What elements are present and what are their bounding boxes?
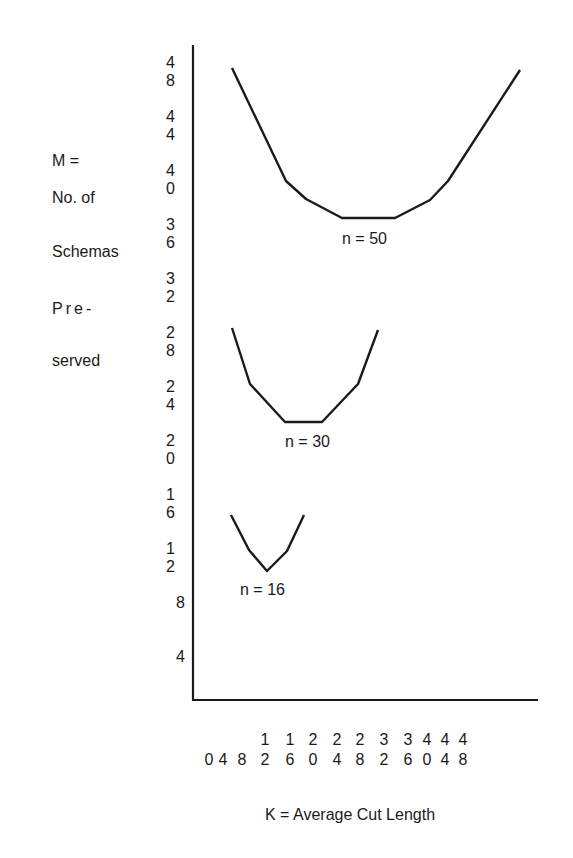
- x-tick-label-bottom: 4: [329, 751, 345, 769]
- curve-n50: [232, 68, 520, 218]
- x-tick-label-bottom: 8: [455, 751, 471, 769]
- x-tick-label-bottom: 0: [305, 751, 321, 769]
- chart-plot-area: [0, 0, 573, 858]
- y-axis-title-line: served: [52, 352, 100, 370]
- x-tick-label-top: 2: [305, 731, 321, 749]
- x-tick-label-top: 4: [419, 731, 435, 749]
- series-label-n50: n = 50: [342, 230, 387, 248]
- x-tick-label-top: 3: [400, 731, 416, 749]
- y-axis-title-line: Schemas: [52, 243, 119, 261]
- y-tick-label: 8: [176, 594, 206, 612]
- x-tick-label-top: 2: [329, 731, 345, 749]
- series-label-n16: n = 16: [240, 581, 285, 599]
- y-axis-title-line: No. of: [52, 189, 95, 207]
- x-tick-label-bottom: 8: [234, 751, 250, 769]
- x-tick-label-top: 1: [282, 731, 298, 749]
- x-tick-label-bottom: 6: [282, 751, 298, 769]
- y-tick-label: 2 4: [166, 378, 196, 414]
- y-tick-label: 4 8: [166, 54, 196, 90]
- x-tick-label-bottom: 4: [437, 751, 453, 769]
- y-tick-label: 1 2: [166, 540, 196, 576]
- y-tick-label: 3 6: [166, 216, 196, 252]
- curve-n30: [232, 328, 378, 422]
- y-tick-label: 2 8: [166, 324, 196, 360]
- x-tick-label-top: 3: [376, 731, 392, 749]
- x-tick-label-bottom: 4: [215, 751, 231, 769]
- x-tick-label-bottom: 0: [419, 751, 435, 769]
- x-tick-label-top: 4: [455, 731, 471, 749]
- y-tick-label: 1 6: [166, 486, 196, 522]
- y-axis-title-line: Pre-: [52, 300, 94, 318]
- x-tick-label-bottom: 2: [376, 751, 392, 769]
- series-label-n30: n = 30: [285, 433, 330, 451]
- x-tick-label-top: 2: [352, 731, 368, 749]
- x-tick-label-top: 1: [257, 731, 273, 749]
- y-tick-label: 3 2: [166, 270, 196, 306]
- y-axis-title-line: M =: [52, 152, 79, 170]
- y-tick-label: 4 4: [166, 108, 196, 144]
- y-tick-label: 4 0: [166, 162, 196, 198]
- x-tick-label-bottom: 6: [400, 751, 416, 769]
- x-tick-label-top: 4: [437, 731, 453, 749]
- curve-n16: [231, 515, 304, 571]
- x-tick-label-bottom: 2: [257, 751, 273, 769]
- x-tick-label-bottom: 8: [352, 751, 368, 769]
- x-axis-title: K = Average Cut Length: [265, 806, 435, 824]
- y-tick-label: 2 0: [166, 432, 196, 468]
- y-tick-label: 4: [176, 648, 206, 666]
